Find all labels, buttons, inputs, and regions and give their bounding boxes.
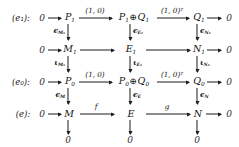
arrow-row1-zero-to-p1	[48, 18, 61, 19]
object-m-row4: M	[64, 109, 74, 119]
vertical-arrow-eps-e1	[130, 24, 131, 40]
arrow-row4-right-g	[146, 114, 190, 115]
arrow-row2-zero-to-m1	[48, 50, 61, 51]
arrow-row2-left	[80, 50, 114, 51]
epsilon-subscript: E	[138, 94, 142, 99]
vertical-arrow-e-to-zero	[130, 120, 131, 134]
commutative-diagram: (e₁): 0 P1 (1, 0) P1⊕Q1 (1, 0)T Q1 0 ϵM₁…	[0, 0, 239, 147]
vertical-label-iota-e1: ιE₁	[133, 59, 142, 68]
subscript-1: 1	[71, 17, 75, 23]
subscript-2a: 1	[73, 49, 77, 55]
arrow-row4-zero-to-m	[48, 114, 61, 115]
arrow-label-row3-left: (1, 0)	[85, 71, 104, 78]
arrow-label-row1-right: (1, 0)T	[161, 7, 183, 14]
arrow-label-row3-right-base: (1, 0)	[161, 70, 180, 79]
subscript-3c: 0	[145, 81, 149, 87]
vertical-arrow-eps-n	[197, 88, 198, 104]
arrow-label-row1-left: (1, 0)	[85, 7, 104, 14]
vertical-arrow-eps-m1	[68, 24, 69, 40]
zero-left-row4: 0	[39, 110, 45, 119]
iota-subscript: E₁	[137, 62, 143, 67]
arrow-label-row3-right: (1, 0)T	[161, 71, 183, 78]
vertical-label-iota-m1: ιM₁	[54, 59, 65, 68]
object-m1-row2: M1	[63, 44, 76, 55]
iota-subscript: N₁	[204, 62, 210, 67]
object-e-row4: E	[128, 109, 135, 119]
arrow-label-row1-right-base: (1, 0)	[161, 6, 180, 15]
vertical-arrow-m-to-zero	[68, 120, 69, 134]
arrow-row1-right	[157, 18, 189, 19]
object-p1-oplus-q1: P1⊕Q1	[119, 12, 149, 23]
zero-left-row1: 0	[39, 14, 45, 23]
subscript-3d: 0	[201, 81, 205, 87]
arrow-label-row3-right-exp: T	[180, 71, 183, 76]
arrow-row3-to-zero	[207, 82, 221, 83]
vertical-arrow-iota-n1	[197, 56, 198, 72]
arrow-row1-left	[79, 18, 112, 19]
arrow-row1-to-zero	[207, 18, 221, 19]
iota-subscript: M₁	[58, 62, 65, 67]
direct-sum-icon: ⊕	[129, 12, 138, 22]
arrow-label-f: f	[95, 103, 98, 110]
object-p0-row3: P0	[65, 76, 75, 87]
vertical-label-eps-m: ϵM	[55, 91, 65, 100]
epsilon-subscript: M₁	[58, 30, 65, 35]
subscript-3a: 0	[71, 81, 75, 87]
zero-left-row2: 0	[39, 46, 45, 55]
row-label-e1: (e₁):	[12, 14, 30, 23]
row-label-e: (e):	[16, 110, 31, 119]
arrow-row4-left-f	[80, 114, 114, 115]
vertical-arrow-iota-m1	[68, 56, 69, 72]
zero-right-row4: 0	[226, 110, 232, 119]
arrow-row3-left	[79, 82, 112, 83]
row-label-e0: (e₀):	[12, 78, 30, 87]
object-n-row4: N	[194, 109, 202, 119]
subscript-1c: 1	[145, 17, 149, 23]
object-n1-row2: N1	[193, 44, 205, 55]
object-p0-oplus-q0: P0⊕Q0	[119, 76, 149, 87]
object-p1-row1: P1	[65, 12, 75, 23]
subscript-2b: 1	[133, 49, 137, 55]
arrow-row4-to-zero	[206, 114, 221, 115]
vertical-label-eps-e1: ϵE₁	[133, 27, 143, 36]
vertical-arrow-n-to-zero	[197, 120, 198, 134]
vertical-label-eps-n1: ϵN₁	[200, 27, 211, 36]
vertical-label-eps-e: ϵE	[133, 91, 141, 100]
vertical-label-eps-m1: ϵM₁	[53, 27, 65, 36]
zero-bottom-col2: 0	[127, 136, 133, 145]
zero-bottom-col3: 0	[194, 136, 200, 145]
arrow-label-g: g	[165, 103, 170, 110]
object-e1-row2: E1	[126, 44, 137, 55]
direct-sum-icon: ⊕	[129, 76, 138, 86]
epsilon-subscript: N₁	[205, 30, 211, 35]
zero-right-row2: 0	[226, 46, 232, 55]
vertical-arrow-iota-e1	[130, 56, 131, 72]
zero-right-row1: 0	[226, 14, 232, 23]
vertical-arrow-eps-n1	[197, 24, 198, 40]
epsilon-subscript: M	[60, 94, 65, 99]
epsilon-subscript: N	[205, 94, 209, 99]
object-q0-row3: Q0	[193, 76, 205, 87]
object-q1-row1: Q1	[193, 12, 205, 23]
arrow-row3-zero-to-p0	[48, 82, 61, 83]
subscript-2c: 1	[201, 49, 205, 55]
vertical-arrow-eps-m	[68, 88, 69, 104]
arrow-label-row1-right-exp: T	[180, 7, 183, 12]
zero-bottom-col1: 0	[65, 136, 71, 145]
epsilon-subscript: E₁	[138, 30, 144, 35]
zero-left-row3: 0	[39, 78, 45, 87]
vertical-arrow-eps-e	[130, 88, 131, 104]
vertical-label-eps-n: ϵN	[200, 91, 209, 100]
arrow-row2-right	[146, 50, 190, 51]
zero-right-row3: 0	[226, 78, 232, 87]
vertical-label-iota-n1: ιN₁	[200, 59, 210, 68]
subscript-1d: 1	[201, 17, 205, 23]
arrow-row3-right	[157, 82, 189, 83]
arrow-row2-to-zero	[207, 50, 221, 51]
